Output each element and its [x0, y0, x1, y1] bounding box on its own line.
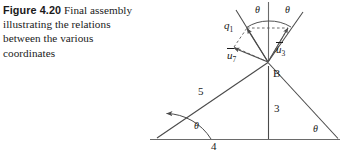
q1-subscript: 1	[230, 25, 234, 34]
theta-label-bottom-right: θ	[313, 124, 318, 134]
u7-overbar-icon	[227, 48, 235, 49]
triangle-group	[150, 63, 340, 140]
theta-arc-top-right	[269, 21, 292, 27]
u3-label: u3	[276, 44, 285, 57]
triangle-left-side-line	[157, 63, 268, 139]
vector-fan-group	[234, 2, 303, 62]
u7-vector-symbol: u7	[227, 50, 236, 63]
theta-arc-top-left	[247, 21, 269, 28]
u3-subscript: 3	[282, 49, 286, 58]
figure-diagram: θ θ q1 u7 u3 B 5 3 4 θ θ	[148, 0, 344, 157]
figure-caption: Figure 4.20 Final assembly illustrating …	[3, 3, 135, 60]
theta-label-top-left: θ	[255, 5, 260, 15]
u3-vector-symbol: u3	[276, 44, 285, 57]
side-left-length-label: 5	[198, 86, 204, 97]
figure-page: Figure 4.20 Final assembly illustrating …	[0, 0, 344, 157]
u7-label: u7	[227, 50, 236, 63]
theta-label-top-right: θ	[285, 5, 290, 15]
side-base-length-label: 4	[211, 141, 217, 152]
u7-subscript: 7	[233, 55, 237, 64]
q1-label: q1	[224, 20, 233, 33]
side-vertical-length-label: 3	[274, 103, 280, 114]
u3-overbar-icon	[276, 42, 284, 43]
theta-label-bottom-left: θ	[194, 121, 199, 131]
figure-number: Figure 4.20	[3, 4, 61, 16]
vertex-b-label: B	[273, 68, 280, 79]
theta-arc-bottom-left	[167, 114, 212, 140]
outer-right-ray	[268, 12, 303, 62]
